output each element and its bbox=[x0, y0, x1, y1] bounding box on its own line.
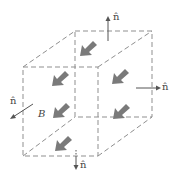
field-label: B bbox=[38, 109, 45, 119]
normal-bottom-label: n̂ bbox=[80, 160, 86, 170]
normal-left-arrow-icon bbox=[10, 104, 33, 119]
normal-top-arrow-icon bbox=[106, 16, 111, 41]
field-arrow-icon bbox=[52, 71, 69, 86]
diagram-canvas bbox=[0, 0, 175, 179]
normal-right-arrow-icon bbox=[136, 86, 161, 91]
field-arrow-icon bbox=[53, 103, 70, 118]
field-arrow-icon bbox=[112, 69, 129, 84]
field-arrow-icon bbox=[55, 136, 72, 151]
normal-right-label: n̂ bbox=[162, 82, 168, 92]
normal-left-label: n̂ bbox=[10, 96, 16, 106]
field-arrows bbox=[52, 41, 130, 151]
normal-top-label: n̂ bbox=[113, 12, 119, 22]
normal-bottom-arrow-icon bbox=[74, 150, 79, 170]
cube-back-face bbox=[75, 31, 152, 117]
field-arrow-icon bbox=[80, 41, 97, 56]
cube-flux-diagram: n̂ n̂ n̂ n̂ B bbox=[0, 0, 175, 179]
